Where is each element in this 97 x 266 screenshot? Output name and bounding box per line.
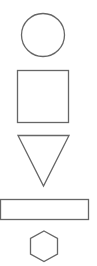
hexagon-shape [31, 231, 58, 262]
square-shape [18, 71, 69, 123]
shapes-canvas [0, 0, 97, 266]
rectangle-shape [1, 200, 89, 220]
circle-shape [22, 14, 65, 57]
triangle-shape [18, 136, 69, 187]
